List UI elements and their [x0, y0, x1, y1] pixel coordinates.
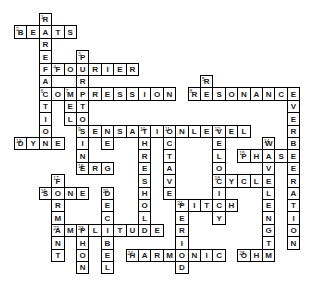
crossword-cell[interactable]: 15P: [237, 149, 250, 162]
crossword-cell[interactable]: L: [101, 261, 114, 274]
crossword-cell[interactable]: O: [212, 162, 225, 175]
crossword-cell[interactable]: 12V: [212, 125, 225, 138]
crossword-cell[interactable]: E: [287, 87, 300, 100]
crossword-cell[interactable]: I: [150, 125, 163, 138]
crossword-cell[interactable]: N: [76, 261, 89, 274]
crossword-cell[interactable]: U: [126, 224, 139, 237]
crossword-cell[interactable]: N: [175, 125, 188, 138]
crossword-cell[interactable]: E: [287, 112, 300, 125]
crossword-cell[interactable]: N: [163, 87, 176, 100]
crossword-cell[interactable]: V: [163, 174, 176, 187]
crossword-cell[interactable]: T: [51, 25, 64, 38]
crossword-cell[interactable]: E: [138, 162, 151, 175]
crossword-cell[interactable]: 24H: [126, 249, 139, 262]
crossword-cell[interactable]: I: [287, 211, 300, 224]
crossword-cell[interactable]: E: [76, 187, 89, 200]
crossword-cell[interactable]: O: [76, 249, 89, 262]
crossword-cell[interactable]: I: [200, 249, 213, 262]
crossword-cell[interactable]: D: [138, 224, 151, 237]
crossword-cell[interactable]: 2B: [14, 25, 27, 38]
crossword-cell[interactable]: E: [88, 125, 101, 138]
crossword-cell[interactable]: I: [39, 112, 52, 125]
crossword-cell[interactable]: A: [163, 162, 176, 175]
crossword-cell[interactable]: E: [101, 137, 114, 150]
crossword-cell[interactable]: R: [76, 75, 89, 88]
crossword-cell[interactable]: N: [262, 87, 275, 100]
crossword-cell[interactable]: P: [76, 87, 89, 100]
crossword-cell[interactable]: R: [126, 63, 139, 76]
crossword-cell[interactable]: E: [101, 199, 114, 212]
crossword-cell[interactable]: U: [76, 63, 89, 76]
crossword-cell[interactable]: H: [225, 199, 238, 212]
crossword-cell[interactable]: N: [101, 125, 114, 138]
crossword-cell[interactable]: T: [51, 249, 64, 262]
crossword-cell[interactable]: G: [262, 224, 275, 237]
crossword-cell[interactable]: S: [126, 87, 139, 100]
crossword-cell[interactable]: R: [150, 249, 163, 262]
crossword-cell[interactable]: E: [262, 174, 275, 187]
crossword-grid[interactable]: 1R2BEATSRE3PF4FOURIERAR5R6CO7MPRESSION8R…: [0, 0, 322, 301]
crossword-cell[interactable]: R: [175, 224, 188, 237]
crossword-cell[interactable]: 25O: [237, 249, 250, 262]
crossword-cell[interactable]: S: [212, 87, 225, 100]
crossword-cell[interactable]: Y: [212, 211, 225, 224]
crossword-cell[interactable]: E: [163, 187, 176, 200]
crossword-cell[interactable]: H: [138, 187, 151, 200]
crossword-cell[interactable]: I: [212, 187, 225, 200]
crossword-cell[interactable]: L: [212, 149, 225, 162]
crossword-cell[interactable]: 6C: [39, 87, 52, 100]
crossword-cell[interactable]: N: [188, 249, 201, 262]
crossword-cell[interactable]: S: [64, 25, 77, 38]
crossword-cell[interactable]: 1R: [39, 13, 52, 26]
crossword-cell[interactable]: E: [200, 125, 213, 138]
crossword-cell[interactable]: 21P: [175, 199, 188, 212]
crossword-cell[interactable]: E: [150, 224, 163, 237]
crossword-cell[interactable]: O: [225, 87, 238, 100]
crossword-cell[interactable]: R: [88, 162, 101, 175]
crossword-cell[interactable]: E: [200, 87, 213, 100]
crossword-cell[interactable]: R: [88, 63, 101, 76]
crossword-cell[interactable]: L: [250, 174, 263, 187]
crossword-cell[interactable]: E: [175, 211, 188, 224]
crossword-cell[interactable]: A: [126, 125, 139, 138]
crossword-cell[interactable]: E: [26, 25, 39, 38]
crossword-cell[interactable]: N: [287, 236, 300, 249]
crossword-cell[interactable]: O: [175, 249, 188, 262]
crossword-cell[interactable]: M: [262, 249, 275, 262]
crossword-cell[interactable]: E: [64, 100, 77, 113]
crossword-cell[interactable]: L: [237, 125, 250, 138]
crossword-cell[interactable]: C: [237, 174, 250, 187]
crossword-cell[interactable]: R: [287, 174, 300, 187]
crossword-cell[interactable]: O: [287, 224, 300, 237]
crossword-cell[interactable]: A: [287, 187, 300, 200]
crossword-cell[interactable]: O: [150, 87, 163, 100]
crossword-cell[interactable]: 20D: [101, 187, 114, 200]
crossword-cell[interactable]: M: [51, 211, 64, 224]
crossword-cell[interactable]: R: [287, 125, 300, 138]
crossword-cell[interactable]: S: [274, 149, 287, 162]
crossword-cell[interactable]: N: [64, 187, 77, 200]
crossword-cell[interactable]: L: [262, 187, 275, 200]
crossword-cell[interactable]: C: [101, 211, 114, 224]
crossword-cell[interactable]: C: [163, 137, 176, 150]
crossword-cell[interactable]: S: [138, 174, 151, 187]
crossword-cell[interactable]: 23P: [76, 224, 89, 237]
crossword-cell[interactable]: E: [101, 87, 114, 100]
crossword-cell[interactable]: E: [113, 63, 126, 76]
crossword-cell[interactable]: I: [138, 87, 151, 100]
crossword-cell[interactable]: R: [51, 199, 64, 212]
crossword-cell[interactable]: 10T: [138, 125, 151, 138]
crossword-cell[interactable]: 7M: [64, 87, 77, 100]
crossword-cell[interactable]: B: [101, 236, 114, 249]
crossword-cell[interactable]: H: [250, 249, 263, 262]
crossword-cell[interactable]: 4F: [51, 63, 64, 76]
crossword-cell[interactable]: H: [250, 149, 263, 162]
crossword-cell[interactable]: D: [175, 261, 188, 274]
crossword-cell[interactable]: 3P: [76, 50, 89, 63]
crossword-cell[interactable]: T: [76, 100, 89, 113]
crossword-cell[interactable]: O: [64, 63, 77, 76]
crossword-cell[interactable]: 11O: [163, 125, 176, 138]
crossword-cell[interactable]: S: [113, 125, 126, 138]
crossword-cell[interactable]: 8R: [188, 87, 201, 100]
crossword-cell[interactable]: C: [212, 199, 225, 212]
